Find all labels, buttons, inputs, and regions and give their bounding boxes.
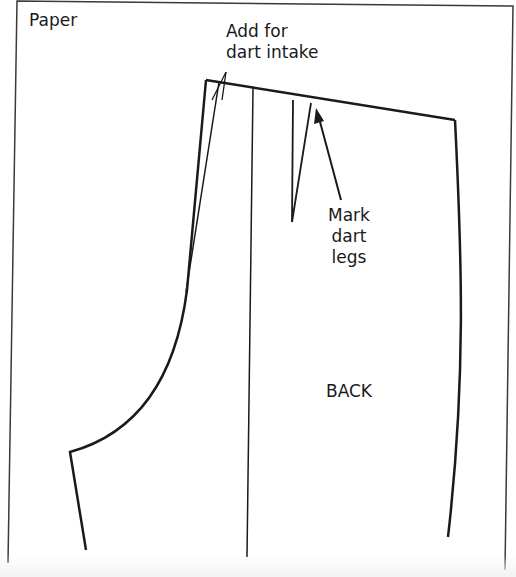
back-label: BACK	[326, 381, 372, 402]
paper-border	[8, 1, 513, 570]
paper-label: Paper	[29, 10, 77, 31]
scan-shadow	[0, 555, 516, 577]
crotch-seam	[70, 80, 206, 550]
mark-dart-legs-label: Mark dart legs	[328, 205, 370, 268]
dart-intake-label: Add for dart intake	[226, 21, 319, 63]
dart-leg-left	[292, 100, 293, 222]
arrow-icon	[314, 108, 341, 200]
waistline	[206, 80, 455, 120]
pattern-diagram	[0, 0, 516, 577]
side-seam	[448, 120, 461, 537]
grainline	[247, 88, 253, 557]
dart-leg-right	[292, 103, 311, 222]
